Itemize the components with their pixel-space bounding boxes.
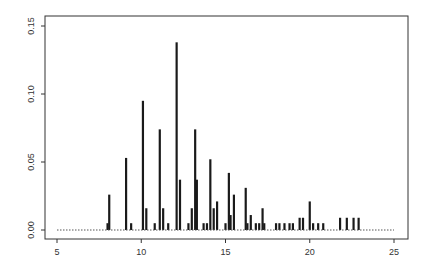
x-axis: 510152025 [54, 239, 399, 257]
x-tick-label: 10 [136, 247, 146, 257]
x-tick-label: 5 [54, 247, 59, 257]
spike-bars [108, 42, 359, 230]
spike-chart: 510152025 0.000.050.100.15 [0, 0, 430, 273]
y-tick-label: 0.10 [26, 85, 36, 103]
y-axis: 0.000.050.100.15 [26, 17, 45, 239]
y-tick-label: 0.05 [26, 153, 36, 171]
x-tick-label: 20 [305, 247, 315, 257]
y-tick-label: 0.00 [26, 221, 36, 239]
x-tick-label: 25 [389, 247, 399, 257]
y-tick-label: 0.15 [26, 17, 36, 35]
plot-frame [45, 16, 408, 239]
x-tick-label: 15 [220, 247, 230, 257]
